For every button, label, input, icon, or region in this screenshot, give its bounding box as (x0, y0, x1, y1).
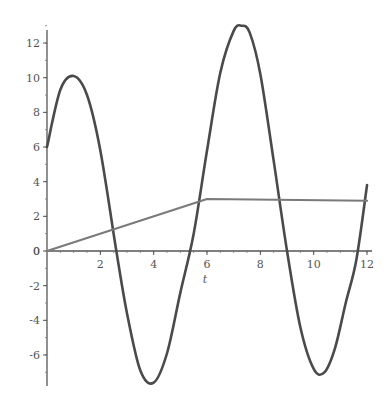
x-axis-label: t (203, 273, 208, 286)
x-tick-label: 6 (204, 258, 211, 271)
series-ramp-line (47, 199, 367, 251)
y-tick-label: 4 (33, 176, 40, 189)
y-tick-label: 2 (33, 210, 40, 223)
y-tick-label: 8 (33, 106, 40, 119)
x-tick-label: 8 (257, 258, 264, 271)
x-tick-label: 4 (150, 258, 157, 271)
y-tick-label: -6 (29, 349, 40, 362)
series-oscillation-line (47, 25, 367, 384)
x-tick-label: 12 (360, 258, 374, 271)
y-tick-label: 6 (33, 141, 40, 154)
line-chart: -6-4-2024681012024681012 t (0, 0, 386, 408)
y-tick-label: -4 (29, 314, 40, 327)
y-tick-label: 0 (33, 245, 40, 258)
y-tick-label: -2 (29, 280, 40, 293)
y-tick-label: 10 (26, 72, 40, 85)
series-group (47, 25, 367, 384)
x-tick-label: 2 (97, 258, 104, 271)
x-tick-label: 10 (307, 258, 321, 271)
axes (47, 30, 372, 386)
y-tick-label: 12 (26, 37, 40, 50)
